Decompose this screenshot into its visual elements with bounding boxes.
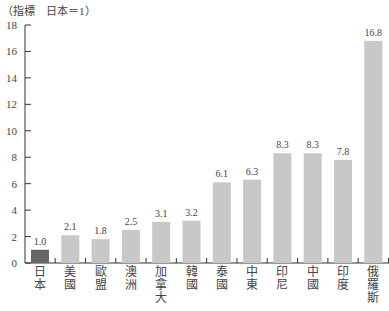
- y-tick-label: 10: [6, 125, 18, 137]
- bar: [61, 235, 79, 263]
- x-tick-label: 印尼: [272, 266, 292, 292]
- x-tick-label: 韓國: [182, 266, 202, 292]
- bar-value-label: 8.3: [306, 139, 319, 150]
- x-tick-label: 日本: [30, 266, 50, 292]
- bar: [213, 182, 231, 263]
- y-tick-label: 4: [12, 204, 18, 216]
- bar: [273, 153, 291, 263]
- y-tick-label: 12: [6, 98, 17, 110]
- bar: [364, 41, 382, 263]
- bar-value-label: 3.2: [185, 207, 198, 218]
- bar: [243, 180, 261, 263]
- y-tick-label: 0: [12, 257, 18, 269]
- bar-value-label: 1.8: [94, 225, 107, 236]
- bar-value-label: 2.5: [125, 216, 138, 227]
- bar: [31, 250, 49, 263]
- bar: [334, 160, 352, 263]
- bar-value-label: 3.1: [155, 208, 168, 219]
- bar-value-label: 1.0: [34, 236, 47, 247]
- x-tick-label: 印度: [333, 266, 353, 292]
- bar: [92, 239, 110, 263]
- y-tick-label: 2: [12, 231, 18, 243]
- y-tick-label: 14: [6, 72, 18, 84]
- x-tick-label: 加拿大: [151, 266, 171, 305]
- y-tick-label: 6: [12, 178, 18, 190]
- bar: [304, 153, 322, 263]
- x-tick-label: 美國: [60, 266, 80, 292]
- bar-value-label: 7.8: [337, 146, 350, 157]
- y-tick-label: 16: [6, 45, 18, 57]
- x-tick-label: 中國: [303, 266, 323, 292]
- x-tick-label: 澳洲: [121, 266, 141, 292]
- x-tick-label: 泰國: [212, 266, 232, 292]
- bar: [183, 221, 201, 263]
- y-tick-label: 8: [12, 151, 18, 163]
- bar: [152, 222, 170, 263]
- bar: [122, 230, 140, 263]
- x-tick-label: 中東: [242, 266, 262, 292]
- bar-value-label: 8.3: [276, 139, 289, 150]
- x-tick-label: 歐盟: [91, 266, 111, 292]
- bar-value-label: 2.1: [64, 221, 77, 232]
- bar-value-label: 6.3: [246, 166, 259, 177]
- bar-value-label: 16.8: [365, 27, 383, 38]
- y-tick-label: 18: [6, 19, 18, 31]
- bar-value-label: 6.1: [216, 168, 229, 179]
- x-tick-label: 俄羅斯: [363, 266, 383, 305]
